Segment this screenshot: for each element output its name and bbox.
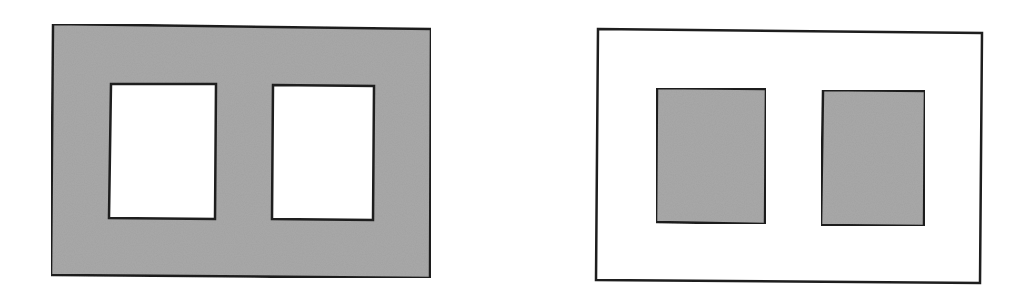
left-panel	[51, 24, 431, 278]
right-filled-rect-1	[656, 88, 766, 224]
left-window-2	[272, 85, 374, 220]
left-window-1	[109, 84, 216, 219]
diagram-canvas	[0, 0, 1028, 298]
diagram-svg	[0, 0, 1028, 298]
right-panel	[596, 29, 982, 283]
right-filled-rect-2	[821, 90, 925, 226]
